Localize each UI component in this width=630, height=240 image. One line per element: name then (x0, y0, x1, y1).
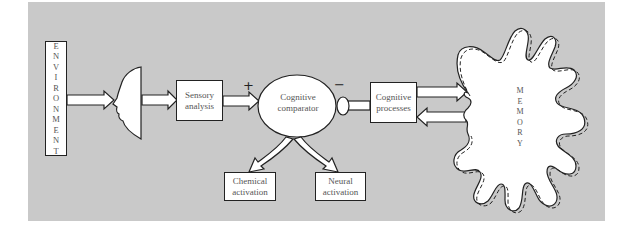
memory-letter: Y (513, 139, 527, 150)
inhibitory-knob (337, 97, 349, 115)
environment-box: E N V I R O N M E N T (45, 41, 67, 156)
cognitive-processes-line1: Cognitive (376, 92, 412, 103)
sensory-analysis-line1: Sensory (185, 90, 214, 101)
memory-letter: M (513, 86, 527, 97)
environment-letter: O (53, 93, 59, 104)
memory-letter: R (513, 128, 527, 139)
chemical-activation-line1: Chemical (232, 176, 268, 187)
environment-letter: I (55, 72, 58, 83)
environment-letter: N (53, 104, 59, 115)
neural-activation-line2: activation (323, 187, 359, 198)
memory-letter: O (513, 118, 527, 129)
cognitive-processes-line2: processes (376, 103, 412, 114)
arrow-memory-to-processes (417, 108, 466, 126)
arrow-processes-to-memory (417, 83, 467, 101)
face-profile-icon (113, 67, 141, 139)
environment-letter: T (53, 146, 58, 157)
chemical-activation-line2: activation (232, 187, 268, 198)
cognitive-comparator-label: Cognitive comparator (258, 92, 338, 114)
environment-letter: M (52, 114, 60, 125)
memory-letter: E (513, 97, 527, 108)
memory-letter: M (513, 107, 527, 118)
environment-letter: E (53, 125, 58, 136)
arrow-sensory-to-comparator (223, 92, 259, 110)
environment-letter: R (53, 83, 59, 94)
sensory-analysis-line2: analysis (185, 101, 214, 112)
arrow-environment-to-face (67, 91, 114, 109)
environment-letter: E (53, 41, 58, 52)
neural-activation-box: Neural activation (315, 172, 366, 201)
memory-label: M E M O R Y (513, 86, 527, 149)
environment-letter: V (53, 62, 59, 73)
arrow-face-to-sensory (142, 91, 177, 109)
cognitive-comparator-line2: comparator (258, 103, 338, 114)
environment-letter: N (53, 135, 59, 146)
negative-sign: − (334, 77, 345, 92)
neural-activation-line1: Neural (323, 176, 359, 187)
arrow-comparator-to-neural (294, 137, 338, 172)
chemical-activation-box: Chemical activation (224, 172, 276, 201)
positive-sign: + (243, 78, 254, 93)
cognitive-comparator-line1: Cognitive (258, 92, 338, 103)
link-comparator-to-processes (348, 101, 370, 110)
environment-letter: N (53, 51, 59, 62)
sensory-analysis-box: Sensory analysis (176, 80, 223, 121)
cognitive-processes-box: Cognitive processes (370, 82, 417, 123)
arrow-comparator-to-chemical (249, 137, 293, 172)
